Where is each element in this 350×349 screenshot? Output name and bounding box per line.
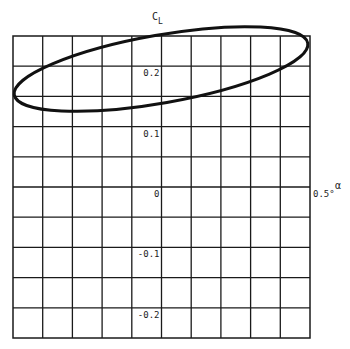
y-tick-label: 0.1 <box>143 129 159 139</box>
y-tick-label: 0 <box>154 189 159 199</box>
grid <box>13 36 310 338</box>
x-axis-label: α <box>335 180 341 191</box>
x-tick-label: 0.5° <box>313 189 335 199</box>
y-tick-label: 0.2 <box>143 68 159 78</box>
y-axis-label: CL <box>152 11 163 26</box>
y-tick-label: -0.1 <box>138 249 160 259</box>
y-axis-label-sub: L <box>158 17 163 26</box>
y-tick-label: -0.2 <box>138 310 160 320</box>
x-tick-labels: 0.5° <box>313 189 335 199</box>
cl-alpha-chart: 0.20.10-0.1-0.2 0.5° CL α <box>0 0 350 349</box>
